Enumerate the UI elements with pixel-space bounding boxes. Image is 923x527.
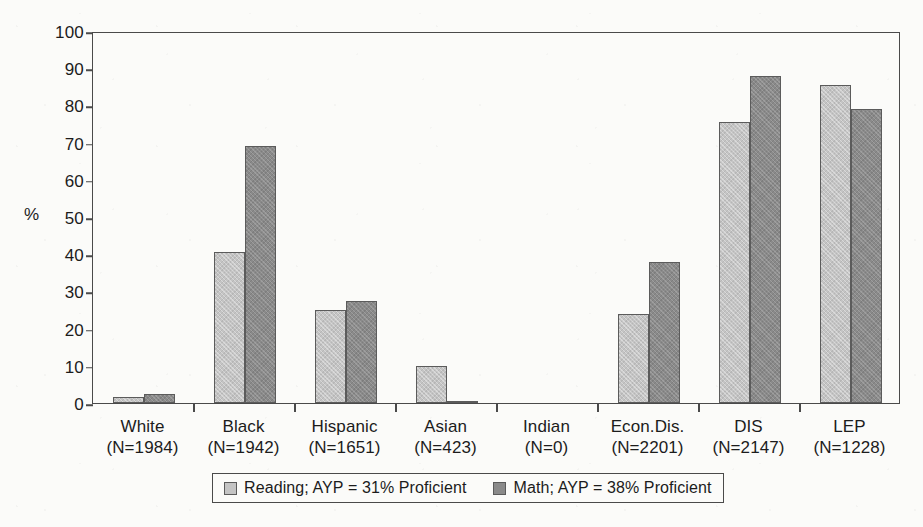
x-category-black: Black(N=1942) [193,416,294,458]
y-tick-label: 60 [65,172,93,192]
bar-reading-white [113,397,144,403]
y-tick-label: 90 [65,60,93,80]
y-tick-label: 20 [65,321,93,341]
bar-math-dis [750,76,781,403]
y-tick-label: 80 [65,97,93,117]
grouped-bar-chart: % 0102030405060708090100 White(N=1984)Bl… [0,0,923,527]
x-category-name: LEP [833,417,865,436]
legend-swatch-reading-icon [224,482,237,495]
x-category-count: (N=2147) [698,437,799,458]
y-tick-label: 0 [74,395,93,415]
y-tick-label: 50 [65,209,93,229]
bar-reading-black [214,252,245,403]
x-axis-tick [799,404,801,412]
bar-math-black [245,146,276,403]
x-category-count: (N=1228) [799,437,900,458]
x-category-name: White [121,417,165,436]
bar-math-hispanic [346,301,377,403]
legend-label: Math; AYP = 38% Proficient [513,479,711,497]
x-category-count: (N=1651) [294,437,395,458]
y-tick-label: 10 [65,358,93,378]
x-axis-tick [496,404,498,412]
x-axis-tick [698,404,700,412]
legend-entry-math: Math; AYP = 38% Proficient [493,479,711,497]
x-category-name: Asian [424,417,467,436]
y-tick-label: 100 [55,23,93,43]
x-axis-categories: White(N=1984)Black(N=1942)Hispanic(N=165… [92,404,900,460]
bar-math-econ-dis- [649,262,680,403]
x-category-count: (N=0) [496,437,597,458]
bar-reading-lep [820,85,851,403]
legend-swatch-math-icon [493,482,506,495]
x-category-count: (N=1942) [193,437,294,458]
y-tick-label: 70 [65,135,93,155]
x-category-count: (N=2201) [597,437,698,458]
y-tick-label: 30 [65,283,93,303]
x-category-indian: Indian(N=0) [496,416,597,458]
bar-reading-dis [719,122,750,403]
x-category-name: Hispanic [312,417,378,436]
x-axis-tick [597,404,599,412]
x-category-name: Black [222,417,264,436]
legend-entry-reading: Reading; AYP = 31% Proficient [224,479,466,497]
x-category-count: (N=423) [395,437,496,458]
chart-legend: Reading; AYP = 31% ProficientMath; AYP =… [212,473,724,503]
x-category-white: White(N=1984) [92,416,193,458]
bar-reading-asian [416,366,447,403]
x-category-name: Indian [523,417,570,436]
x-category-hispanic: Hispanic(N=1651) [294,416,395,458]
bars-layer [93,33,899,403]
bar-math-asian [447,401,478,403]
x-category-lep: LEP(N=1228) [799,416,900,458]
x-axis-tick [294,404,296,412]
bar-math-white [144,394,175,403]
x-category-count: (N=1984) [92,437,193,458]
bar-math-lep [851,109,882,403]
y-axis-title: % [24,205,39,225]
legend-label: Reading; AYP = 31% Proficient [244,479,466,497]
bar-reading-econ-dis- [618,314,649,403]
x-axis-tick [193,404,195,412]
bar-reading-hispanic [315,310,346,403]
x-category-econ-dis-: Econ.Dis.(N=2201) [597,416,698,458]
x-category-asian: Asian(N=423) [395,416,496,458]
x-axis-tick [395,404,397,412]
x-category-dis: DIS(N=2147) [698,416,799,458]
x-category-name: DIS [734,417,763,436]
y-tick-label: 40 [65,246,93,266]
plot-area: 0102030405060708090100 [92,32,900,404]
x-category-name: Econ.Dis. [611,417,685,436]
